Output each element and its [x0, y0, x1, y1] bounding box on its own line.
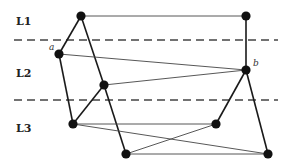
graph-edge [59, 54, 73, 124]
graph-edge [104, 85, 126, 154]
graph-node-n6 [68, 119, 77, 128]
graph-node-n2 [241, 11, 250, 20]
node-labels: ab [49, 42, 259, 68]
graph-node-n5 [99, 80, 108, 89]
graph-edge [126, 124, 216, 154]
node-label-b: b [253, 58, 259, 68]
graph-edge [73, 85, 104, 124]
graph-node-n7 [211, 119, 220, 128]
layer-label-L2: L2 [16, 67, 31, 80]
graph-edge [59, 16, 81, 54]
graph-edges [59, 16, 268, 154]
graph-node-n9 [263, 149, 272, 158]
graph-node-b [241, 65, 250, 74]
node-label-a: a [49, 42, 54, 52]
graph-edge [59, 54, 246, 70]
graph-node-a [54, 49, 63, 58]
graph-edge [104, 70, 246, 85]
graph-node-n1 [76, 11, 85, 20]
layer-labels: L1L2L3 [16, 15, 31, 135]
graph-edge [246, 70, 268, 154]
layered-graph-diagram: L1L2L3 ab [0, 0, 291, 168]
graph-edge [81, 16, 104, 85]
layer-label-L1: L1 [16, 15, 31, 28]
layer-label-L3: L3 [16, 122, 31, 135]
graph-edge [216, 70, 246, 124]
graph-node-n8 [121, 149, 130, 158]
